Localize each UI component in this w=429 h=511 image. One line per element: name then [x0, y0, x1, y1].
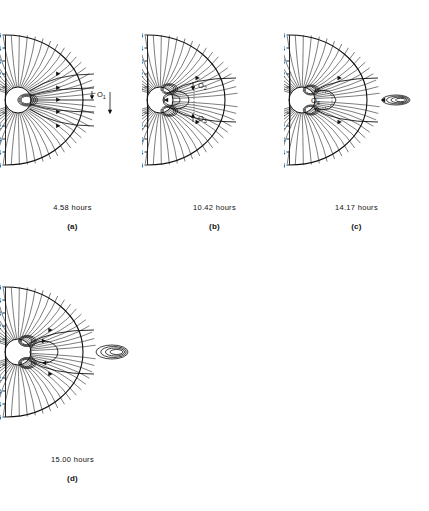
panel-d-time-label: 15.00 hours	[0, 455, 145, 464]
panel-b: 5432112345O2O3 10.42 hours (b)	[142, 0, 287, 250]
svg-text:4: 4	[0, 149, 1, 156]
svg-text:2: 2	[0, 375, 1, 382]
svg-text:1: 1	[0, 110, 1, 117]
svg-text:5: 5	[284, 32, 285, 39]
svg-text:2: 2	[142, 71, 143, 78]
svg-text:3: 3	[142, 58, 143, 65]
panel-a-time-label: 4.58 hours	[0, 203, 145, 212]
svg-text:O2: O2	[198, 81, 207, 91]
svg-text:2: 2	[142, 123, 143, 130]
svg-text:2: 2	[0, 323, 1, 330]
svg-text:3: 3	[0, 388, 1, 395]
svg-text:4: 4	[284, 149, 285, 156]
panel-b-label: (b)	[142, 222, 287, 231]
panel-c: 5432112345O4 14.17 hours (c)	[284, 0, 429, 250]
panel-c-plot: 5432112345O4	[284, 0, 429, 200]
svg-text:5: 5	[0, 414, 1, 421]
svg-text:5: 5	[284, 162, 285, 169]
svg-text:5: 5	[0, 162, 1, 169]
panel-c-label: (c)	[284, 222, 429, 231]
svg-text:3: 3	[142, 136, 143, 143]
svg-text:2: 2	[284, 71, 285, 78]
svg-text:5: 5	[142, 162, 143, 169]
panel-c-svg: 5432112345O4	[284, 0, 429, 200]
panel-c-time-label: 14.17 hours	[284, 203, 429, 212]
svg-text:3: 3	[0, 310, 1, 317]
svg-text:3: 3	[284, 58, 285, 65]
svg-text:1: 1	[0, 362, 1, 369]
svg-text:1: 1	[142, 110, 143, 117]
svg-text:4: 4	[142, 149, 143, 156]
panel-b-svg: 5432112345O2O3	[142, 0, 287, 200]
svg-text:1: 1	[0, 84, 1, 91]
svg-text:O4: O4	[311, 96, 320, 106]
svg-text:1: 1	[142, 84, 143, 91]
svg-text:3: 3	[0, 136, 1, 143]
panel-a-svg: 5432112345O1	[0, 0, 145, 200]
svg-text:2: 2	[284, 123, 285, 130]
svg-text:1: 1	[0, 336, 1, 343]
panel-b-plot: 5432112345O2O3	[142, 0, 287, 200]
svg-text:O1: O1	[97, 90, 106, 100]
panel-b-time-label: 10.42 hours	[142, 203, 287, 212]
svg-text:5: 5	[142, 32, 143, 39]
svg-text:3: 3	[0, 58, 1, 65]
svg-text:4: 4	[0, 45, 1, 52]
panel-a-label: (a)	[0, 222, 145, 231]
svg-text:5: 5	[0, 284, 1, 291]
svg-text:1: 1	[284, 110, 285, 117]
svg-text:1: 1	[284, 84, 285, 91]
figure-container: 5432112345O1 4.58 hours (a) 5432112345O2…	[0, 0, 429, 511]
svg-text:2: 2	[0, 71, 1, 78]
panel-d-svg: 5432112345	[0, 252, 145, 452]
panel-a-plot: 5432112345O1	[0, 0, 145, 200]
svg-text:5: 5	[0, 32, 1, 39]
panel-d-plot: 5432112345	[0, 252, 145, 452]
svg-text:2: 2	[0, 123, 1, 130]
svg-text:4: 4	[142, 45, 143, 52]
svg-text:4: 4	[284, 45, 285, 52]
svg-text:4: 4	[0, 297, 1, 304]
panel-a: 5432112345O1 4.58 hours (a)	[0, 0, 145, 250]
panel-d: 5432112345 15.00 hours (d)	[0, 252, 145, 502]
svg-text:O3: O3	[198, 114, 207, 124]
svg-text:4: 4	[0, 401, 1, 408]
svg-text:3: 3	[284, 136, 285, 143]
panel-d-label: (d)	[0, 474, 145, 483]
